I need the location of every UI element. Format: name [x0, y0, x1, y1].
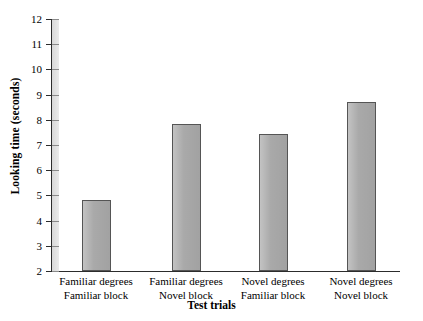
x-category-label: Novel degreesFamiliar block: [241, 275, 305, 302]
y-tick-label: 6: [37, 165, 43, 176]
x-category-label-line: Familiar degrees: [149, 275, 223, 289]
y-tick-label: 10: [31, 64, 42, 75]
y-tick-inner-mark: [52, 95, 59, 96]
bar: [259, 134, 288, 271]
y-tick-inner-mark: [52, 246, 59, 247]
y-tick-inner-mark: [52, 69, 59, 70]
x-category-label: Familiar degreesFamiliar block: [59, 275, 133, 302]
x-category-label-line: Familiar degrees: [59, 275, 133, 289]
bar: [82, 200, 111, 271]
x-category-label: Novel degreesNovel block: [329, 275, 392, 302]
bar-chart: Looking time (seconds) 23456789101112 Fa…: [0, 0, 423, 321]
y-tick-inner-mark: [52, 221, 59, 222]
x-category-label-line: Novel degrees: [241, 275, 305, 289]
x-axis-title: Test trials: [0, 299, 423, 311]
bar: [347, 102, 376, 271]
y-tick-label: 11: [31, 39, 42, 50]
y-tick-label: 5: [37, 190, 43, 201]
y-tick-label: 9: [37, 89, 43, 100]
bar: [172, 124, 201, 271]
x-axis-line: [51, 271, 400, 272]
y-tick-label: 8: [37, 114, 43, 125]
y-tick-inner-mark: [52, 145, 59, 146]
y-tick-inner-mark: [52, 44, 59, 45]
y-tick-label: 2: [37, 266, 43, 277]
y-tick-inner-mark: [52, 19, 59, 20]
y-axis-title-text: Looking time (seconds): [9, 77, 21, 194]
x-category-label-line: Novel degrees: [329, 275, 392, 289]
y-tick-inner-mark: [52, 195, 59, 196]
y-axis-title: Looking time (seconds): [4, 0, 26, 271]
plot-area: 23456789101112 Familiar degreesFamiliar …: [51, 19, 400, 271]
y-tick-inner-mark: [52, 271, 59, 272]
y-tick-label: 12: [31, 14, 42, 25]
y-tick-label: 4: [37, 215, 43, 226]
y-tick-label: 3: [37, 240, 43, 251]
y-tick-inner-mark: [52, 120, 59, 121]
x-category-label: Familiar degreesNovel block: [149, 275, 223, 302]
y-tick-label: 7: [37, 140, 43, 151]
y-tick-inner-mark: [52, 170, 59, 171]
